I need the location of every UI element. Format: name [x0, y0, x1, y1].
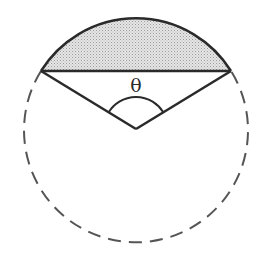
central-angle-arc	[109, 97, 164, 112]
circle-segment-diagram: θ	[0, 0, 261, 256]
theta-label: θ	[130, 74, 141, 96]
shaded-segment	[41, 18, 231, 71]
